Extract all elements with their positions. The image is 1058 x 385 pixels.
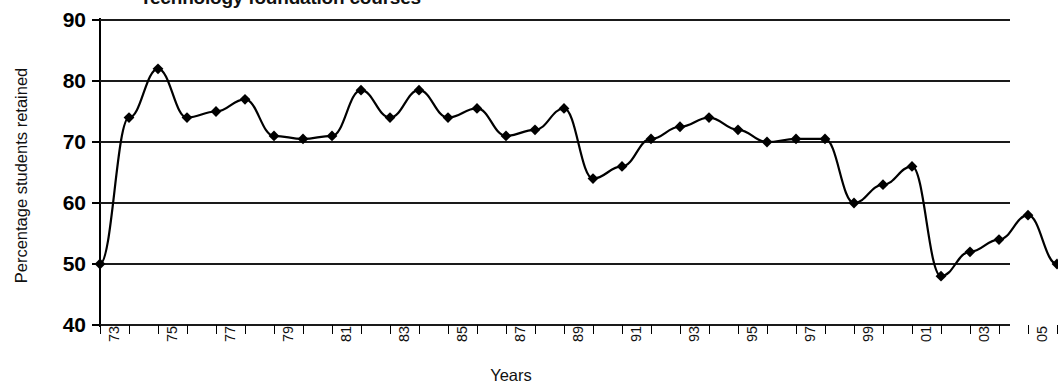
y-tick-label-50: 50	[38, 253, 86, 274]
x-tick-04	[999, 325, 1000, 334]
x-tick-89	[564, 325, 565, 334]
x-tick-98	[825, 325, 826, 334]
x-tick-label-97: 97	[802, 326, 818, 342]
x-tick-99	[854, 325, 855, 334]
data-point-marker	[443, 112, 454, 123]
x-tick-77	[216, 325, 217, 334]
x-tick-91	[622, 325, 623, 334]
x-tick-73	[100, 325, 101, 334]
x-tick-02	[941, 325, 942, 334]
x-tick-label-01: 01	[918, 326, 934, 342]
x-tick-label-87: 87	[512, 326, 528, 342]
x-tick-88	[535, 325, 536, 334]
data-point-marker	[269, 131, 280, 142]
data-point-marker	[791, 134, 802, 145]
x-tick-label-03: 03	[976, 326, 992, 342]
x-tick-label-75: 75	[164, 326, 180, 342]
x-tick-label-99: 99	[860, 326, 876, 342]
x-tick-label-79: 79	[280, 326, 296, 342]
data-point-marker	[385, 112, 396, 123]
data-point-marker	[733, 124, 744, 135]
x-tick-97	[796, 325, 797, 334]
data-point-marker	[298, 134, 309, 145]
y-tick-40	[92, 324, 100, 326]
data-point-marker	[617, 161, 628, 172]
x-tick-81	[332, 325, 333, 334]
data-point-marker	[704, 112, 715, 123]
data-point-marker	[994, 234, 1005, 245]
data-point-marker	[182, 112, 193, 123]
x-tick-03	[970, 325, 971, 334]
x-tick-90	[593, 325, 594, 334]
x-tick-85	[448, 325, 449, 334]
x-tick-78	[245, 325, 246, 334]
y-tick-80	[92, 80, 100, 82]
data-point-marker	[878, 179, 889, 190]
data-point-marker	[530, 124, 541, 135]
x-tick-92	[651, 325, 652, 334]
y-tick-label-60: 60	[38, 192, 86, 213]
x-tick-label-83: 83	[396, 326, 412, 342]
data-point-marker	[501, 131, 512, 142]
data-point-marker	[327, 131, 338, 142]
data-point-marker	[965, 246, 976, 257]
data-point-marker	[356, 85, 367, 96]
data-point-marker	[762, 137, 773, 148]
x-tick-00	[883, 325, 884, 334]
plot-area: 405060708090 737577798183858789919395979…	[100, 20, 1010, 325]
x-tick-label-73: 73	[106, 326, 122, 342]
data-point-marker	[153, 63, 164, 74]
y-tick-label-70: 70	[38, 131, 86, 152]
x-tick-95	[738, 325, 739, 334]
x-tick-83	[390, 325, 391, 334]
x-tick-label-81: 81	[338, 326, 354, 342]
data-point-marker	[646, 134, 657, 145]
y-tick-60	[92, 202, 100, 204]
data-point-marker	[675, 121, 686, 132]
x-tick-86	[477, 325, 478, 334]
data-point-marker	[211, 106, 222, 117]
x-tick-label-89: 89	[570, 326, 586, 342]
x-tick-01	[912, 325, 913, 334]
data-point-marker	[1023, 210, 1034, 221]
x-tick-96	[767, 325, 768, 334]
x-tick-74	[129, 325, 130, 334]
x-tick-79	[274, 325, 275, 334]
x-tick-label-77: 77	[222, 326, 238, 342]
data-point-marker	[414, 85, 425, 96]
x-tick-75	[158, 325, 159, 334]
y-tick-label-80: 80	[38, 70, 86, 91]
x-tick-94	[709, 325, 710, 334]
x-tick-label-85: 85	[454, 326, 470, 342]
y-tick-70	[92, 141, 100, 143]
x-tick-label-05: 05	[1034, 326, 1050, 342]
x-tick-84	[419, 325, 420, 334]
y-axis-title: Percentage students retained	[12, 26, 31, 326]
x-tick-05	[1028, 325, 1029, 334]
data-point-marker	[240, 94, 251, 105]
data-point-marker	[472, 103, 483, 114]
y-tick-label-90: 90	[38, 9, 86, 30]
x-tick-label-95: 95	[744, 326, 760, 342]
y-tick-label-40: 40	[38, 314, 86, 335]
page-title: Technology foundation courses	[140, 0, 421, 9]
x-tick-87	[506, 325, 507, 334]
x-tick-76	[187, 325, 188, 334]
x-axis-title: Years	[0, 366, 1022, 385]
x-tick-label-93: 93	[686, 326, 702, 342]
data-series-line	[100, 20, 1010, 325]
x-tick-label-91: 91	[628, 326, 644, 342]
x-tick-80	[303, 325, 304, 334]
x-tick-82	[361, 325, 362, 334]
y-tick-90	[92, 19, 100, 21]
x-tick-93	[680, 325, 681, 334]
